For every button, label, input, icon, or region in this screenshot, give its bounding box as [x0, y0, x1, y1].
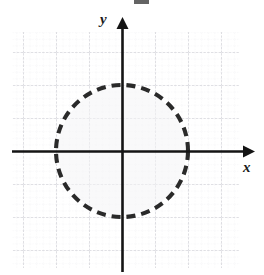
coordinate-plane-svg	[0, 0, 264, 275]
figure-canvas: y x	[0, 0, 264, 275]
y-axis-label: y	[100, 12, 107, 27]
scan-smudge-artifact	[134, 0, 149, 4]
x-axis-label: x	[243, 160, 251, 175]
